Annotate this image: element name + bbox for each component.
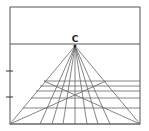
vanishing-point-label: C: [72, 34, 79, 44]
ray-line: [40, 46, 75, 124]
vanishing-point-marker: [74, 45, 77, 48]
vanishing-rays: [10, 46, 140, 124]
ray-line: [75, 46, 98, 124]
perspective-diagram: C: [0, 0, 149, 131]
ray-line: [75, 46, 110, 124]
ray-line: [10, 46, 75, 124]
ray-line: [75, 46, 140, 124]
ray-line: [52, 46, 75, 124]
